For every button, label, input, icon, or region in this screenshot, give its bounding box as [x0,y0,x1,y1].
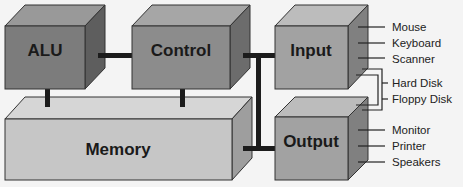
alu-block: ALU [5,5,105,89]
memory-label: Memory [85,140,151,159]
diagram-canvas: Memory ALU Control Input Output [0,0,463,187]
device-mouse: Mouse [392,21,427,33]
control-label: Control [151,41,211,60]
alu-label: ALU [28,41,63,60]
device-speakers: Speakers [392,156,441,168]
device-floppy-disk: Floppy Disk [392,93,452,105]
output-label: Output [283,132,339,151]
device-monitor: Monitor [392,124,431,136]
alu-memory-connector [45,89,50,107]
input-label: Input [290,41,332,60]
architecture-diagram: Memory ALU Control Input Output [0,0,463,187]
device-hard-disk: Hard Disk [392,77,443,89]
device-printer: Printer [392,140,426,152]
device-keyboard: Keyboard [392,37,441,49]
control-block: Control [132,5,250,89]
device-scanner: Scanner [392,53,435,65]
alu-control-connector [98,53,132,58]
output-block: Output [275,97,368,180]
memory-block: Memory [5,97,252,180]
input-block: Input [275,5,368,89]
control-memory-connector [180,89,185,107]
